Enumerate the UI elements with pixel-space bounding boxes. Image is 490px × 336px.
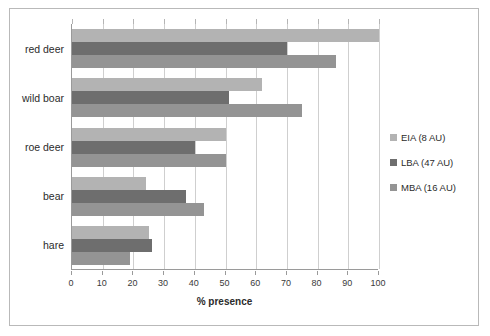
bar xyxy=(72,177,146,190)
x-tick-label: 80 xyxy=(312,278,322,288)
bar xyxy=(72,252,130,265)
top-tick-mark xyxy=(103,19,104,24)
x-tick-label: 30 xyxy=(158,278,168,288)
legend-swatch-icon xyxy=(390,134,397,141)
legend-swatch-icon xyxy=(390,184,397,191)
bar xyxy=(72,78,262,91)
bar xyxy=(72,226,149,239)
x-tick-mark xyxy=(347,271,348,275)
chart-legend: EIA (8 AU)LBA (47 AU)MBA (16 AU) xyxy=(390,132,472,207)
bar xyxy=(72,42,287,55)
x-tick-mark xyxy=(286,271,287,275)
top-tick-mark xyxy=(72,19,73,24)
x-tick-label: 60 xyxy=(250,278,260,288)
x-tick-mark xyxy=(317,271,318,275)
top-tick-mark xyxy=(164,19,165,24)
x-tick-label: 50 xyxy=(219,278,229,288)
y-axis-label: roe deer xyxy=(14,141,64,153)
top-tick-mark xyxy=(379,19,380,24)
x-tick-label: 90 xyxy=(342,278,352,288)
x-tick-mark xyxy=(378,271,379,275)
top-tick-mark xyxy=(348,19,349,24)
legend-item: LBA (47 AU) xyxy=(390,157,472,168)
legend-label: LBA (47 AU) xyxy=(401,157,453,168)
legend-label: EIA (8 AU) xyxy=(401,132,445,143)
x-tick-mark xyxy=(194,271,195,275)
top-tick-mark xyxy=(256,19,257,24)
x-tick-mark xyxy=(163,271,164,275)
x-tick-label: 20 xyxy=(127,278,137,288)
legend-item: MBA (16 AU) xyxy=(390,182,472,193)
gridline xyxy=(379,24,380,269)
x-tick-mark xyxy=(132,271,133,275)
x-tick-mark xyxy=(225,271,226,275)
x-tick-mark xyxy=(102,271,103,275)
top-tick-mark xyxy=(195,19,196,24)
y-axis-label: hare xyxy=(14,239,64,251)
bar xyxy=(72,55,336,68)
x-tick-label: 0 xyxy=(68,278,73,288)
bar xyxy=(72,141,195,154)
legend-swatch-icon xyxy=(390,159,397,166)
y-axis-label: red deer xyxy=(14,43,64,55)
gridline xyxy=(348,24,349,269)
y-axis-label: bear xyxy=(14,190,64,202)
bar xyxy=(72,29,379,42)
x-tick-label: 40 xyxy=(189,278,199,288)
x-tick-label: 100 xyxy=(370,278,385,288)
bar xyxy=(72,128,226,141)
bar xyxy=(72,154,226,167)
x-tick-label: 10 xyxy=(97,278,107,288)
x-tick-mark xyxy=(71,271,72,275)
x-axis-title: % presence xyxy=(197,296,253,307)
legend-label: MBA (16 AU) xyxy=(401,182,456,193)
top-tick-mark xyxy=(226,19,227,24)
top-tick-mark xyxy=(133,19,134,24)
bar xyxy=(72,203,204,216)
top-tick-mark xyxy=(287,19,288,24)
bar xyxy=(72,104,302,117)
top-tick-mark xyxy=(318,19,319,24)
bar xyxy=(72,91,229,104)
bar xyxy=(72,190,186,203)
plot-area xyxy=(71,24,378,270)
y-axis-label: wild boar xyxy=(14,92,64,104)
bar xyxy=(72,239,152,252)
chart-figure: 0102030405060708090100 red deerwild boar… xyxy=(0,0,490,336)
x-tick-mark xyxy=(255,271,256,275)
x-tick-label: 70 xyxy=(281,278,291,288)
legend-item: EIA (8 AU) xyxy=(390,132,472,143)
